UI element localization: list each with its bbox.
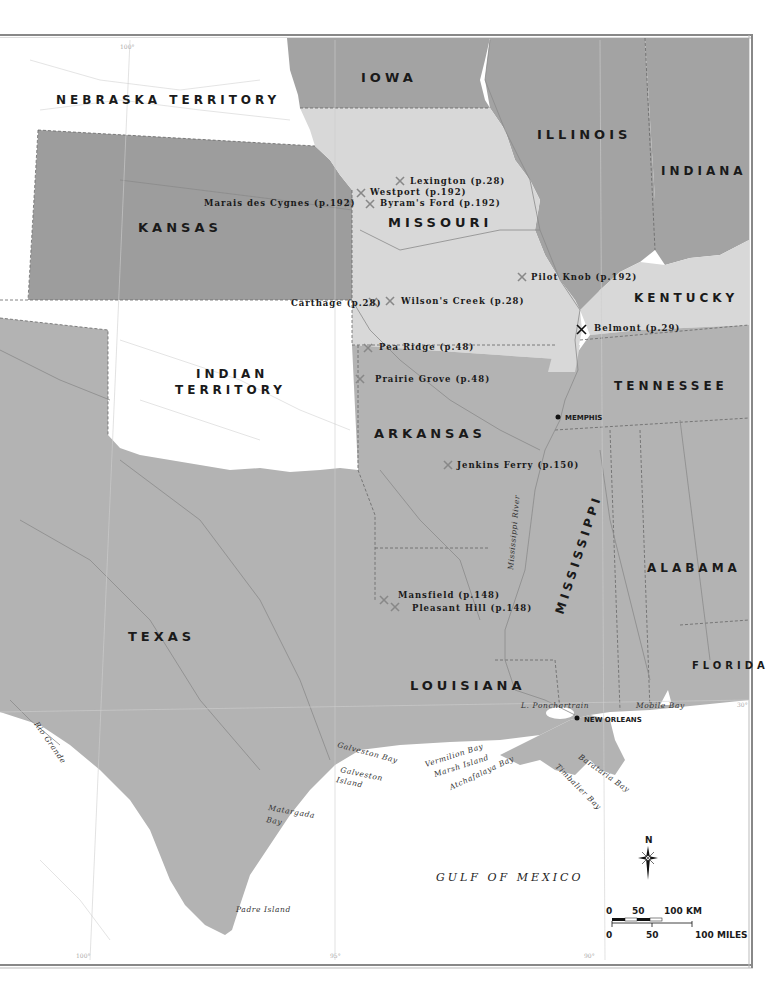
scale-km-50: 50 (632, 906, 645, 916)
city-label-new-orleans: NEW ORLEANS (584, 716, 642, 724)
compass-north-label: N (645, 835, 653, 845)
label-l-ponchartrain: L. Ponchartrain (520, 701, 589, 710)
battle-label-carthage: Carthage (p.28) (291, 298, 381, 308)
battle-label-wilsons-creek: Wilson's Creek (p.28) (400, 296, 525, 306)
battle-label-marais: Marais des Cygnes (p.192) (204, 198, 356, 208)
label-kansas: KANSAS (138, 220, 222, 235)
label-kentucky: KENTUCKY (634, 291, 738, 305)
indiana-region (645, 38, 749, 265)
label-gulf-of-mexico: GULF OF MEXICO (436, 871, 584, 884)
scale-mi-100: 100 MILES (695, 930, 748, 940)
label-missouri: MISSOURI (388, 215, 492, 230)
label-arkansas: ARKANSAS (374, 426, 486, 441)
scale-mi-50: 50 (646, 930, 659, 940)
memphis-dot (556, 415, 561, 420)
nebraska-territory (0, 38, 315, 146)
scale-km-100: 100 KM (664, 906, 702, 916)
battle-label-westport: Westport (p.192) (369, 187, 467, 197)
battle-label-prairie-grove: Prairie Grove (p.48) (375, 374, 490, 384)
battle-label-jenkins-ferry: Jenkins Ferry (p.150) (456, 460, 579, 470)
label-padre-island: Padre Island (235, 905, 291, 914)
kansas-region (28, 130, 352, 300)
graticule-top-100: 100° (120, 43, 134, 50)
graticule-bottom-90: 90° (584, 952, 595, 959)
label-texas: TEXAS (128, 629, 195, 644)
label-tennessee: TENNESSEE (614, 379, 728, 393)
label-louisiana: LOUISIANA (410, 678, 525, 693)
new-orleans-dot (575, 716, 580, 721)
graticule-bottom-95: 95° (330, 952, 341, 959)
label-mobile-bay: Mobile Bay (635, 701, 685, 710)
scale-mi-0: 0 (606, 930, 612, 940)
battle-label-lexington: Lexington (p.28) (410, 176, 505, 186)
civil-war-west-map: 100° 100° 95° 90° 30° NEBRASKA TERRITORY… (0, 0, 784, 992)
label-indian-territory-2: TERRITORY (175, 383, 286, 397)
battle-label-pleasant-hill: Pleasant Hill (p.148) (412, 603, 532, 613)
city-label-memphis: MEMPHIS (565, 414, 602, 422)
battle-label-mansfield: Mansfield (p.148) (398, 590, 500, 600)
battle-label-pea-ridge: Pea Ridge (p.48) (379, 342, 474, 352)
scale-km-0: 0 (606, 906, 612, 916)
label-indiana: INDIANA (661, 164, 747, 178)
graticule-lat-30: 30° (737, 701, 748, 708)
battle-label-pilot-knob: Pilot Knob (p.192) (531, 272, 637, 282)
label-florida: FLORIDA (692, 660, 769, 671)
graticule-bottom-100: 100° (76, 952, 90, 959)
label-alabama: ALABAMA (647, 561, 741, 575)
label-illinois: ILLINOIS (537, 127, 631, 142)
battle-label-byrams: Byram's Ford (p.192) (380, 198, 501, 208)
battle-label-belmont: Belmont (p.29) (594, 323, 680, 333)
label-indian-territory-1: INDIAN (196, 367, 268, 381)
label-iowa: IOWA (361, 70, 417, 85)
label-nebraska: NEBRASKA TERRITORY (56, 93, 280, 107)
